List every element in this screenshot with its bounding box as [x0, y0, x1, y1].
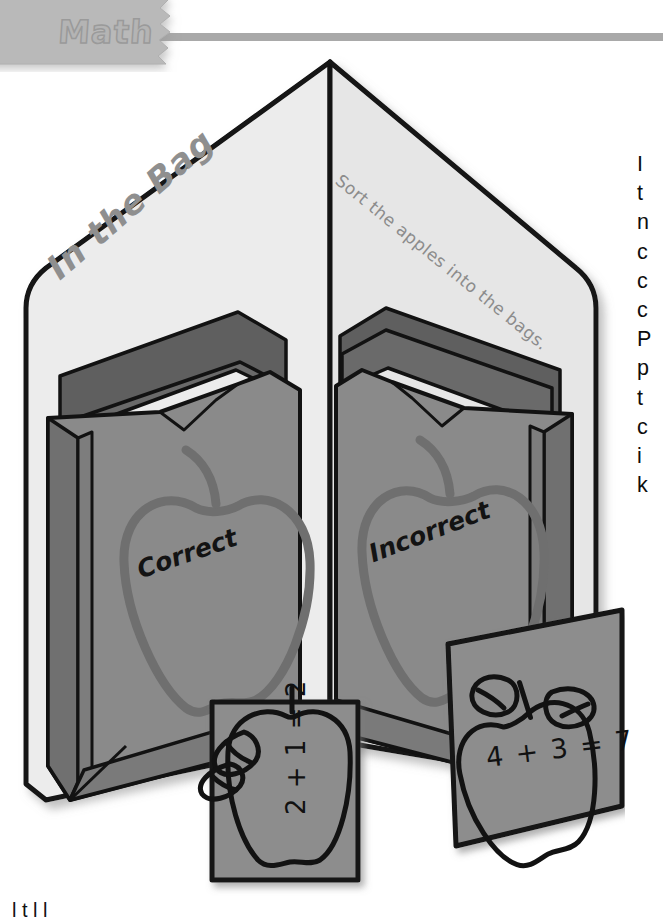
body-line: k — [637, 471, 663, 500]
body-line: n — [637, 208, 663, 237]
body-line: t — [637, 179, 663, 208]
body-line: c — [637, 413, 663, 442]
body-line: I — [637, 150, 663, 179]
activity-illustration — [0, 40, 625, 914]
body-line: p — [637, 354, 663, 383]
body-line: c — [637, 238, 663, 267]
apple-card-left-equation: 2 + 1 = 2 — [281, 680, 311, 815]
body-line: c — [637, 296, 663, 325]
footer-clipped-text: l t l l — [12, 899, 48, 921]
body-line: i — [637, 442, 663, 471]
body-line: c — [637, 267, 663, 296]
body-line: t — [637, 384, 663, 413]
body-line: P — [637, 325, 663, 354]
body-text-column: I t n c c c P p t c i k — [637, 150, 663, 500]
